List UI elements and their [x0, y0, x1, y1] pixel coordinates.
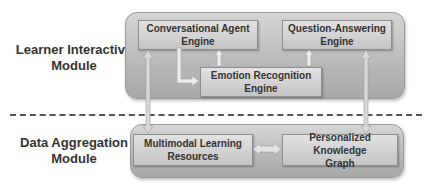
up-arrow-icon	[215, 50, 223, 66]
double-arrow-icon	[253, 143, 281, 155]
elbow-arrow-icon	[177, 48, 199, 86]
connector-arrows	[0, 0, 431, 188]
up-arrow-icon	[305, 50, 313, 66]
double-arrow-icon	[143, 50, 153, 134]
double-arrow-icon	[361, 50, 371, 134]
